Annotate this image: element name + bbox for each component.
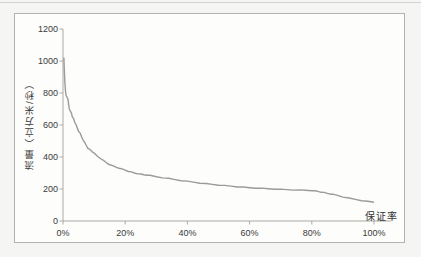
scan-artifact-line [0, 2, 421, 3]
y-tick-label-600: 600 [28, 120, 58, 130]
y-tick-label-1000: 1000 [28, 56, 58, 66]
y-tick-label-200: 200 [28, 184, 58, 194]
x-tick-label-100: 100% [357, 228, 391, 238]
x-tick-label-60: 60% [233, 228, 267, 238]
y-tick-label-1200: 1200 [28, 24, 58, 34]
y-tick-label-0: 0 [28, 216, 58, 226]
y-tick-label-800: 800 [28, 88, 58, 98]
x-tick-label-40: 40% [170, 228, 204, 238]
chart-frame: 流量（立方米/秒） 保证率 0200400600800100012000%20%… [14, 13, 405, 243]
x-axis-title: 保证率 [365, 208, 398, 223]
y-tick-label-400: 400 [28, 152, 58, 162]
x-tick-label-80: 80% [295, 228, 329, 238]
x-tick-label-20: 20% [108, 228, 142, 238]
x-tick-label-0: 0% [46, 228, 80, 238]
flow-duration-curve-plot [15, 14, 404, 242]
flow-duration-curve [64, 58, 374, 203]
